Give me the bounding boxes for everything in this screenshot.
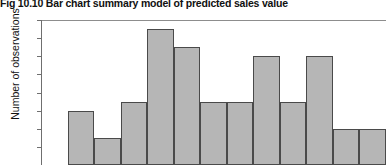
bar bbox=[94, 138, 121, 165]
chart-title: Fig 10.10 Bar chart summary model of pre… bbox=[0, 0, 386, 10]
bar bbox=[253, 56, 280, 165]
bar bbox=[200, 102, 227, 165]
bar bbox=[147, 29, 174, 165]
bar bbox=[174, 47, 201, 165]
bar bbox=[359, 129, 386, 165]
bar-series bbox=[41, 20, 386, 165]
bar bbox=[121, 102, 148, 165]
bar bbox=[280, 102, 307, 165]
figure-container: Fig 10.10 Bar chart summary model of pre… bbox=[0, 0, 386, 165]
bar bbox=[227, 102, 254, 165]
bar bbox=[68, 111, 95, 165]
bar bbox=[333, 129, 360, 165]
y-axis-title: Number of observations bbox=[7, 0, 23, 139]
plot-area bbox=[41, 20, 386, 165]
bar bbox=[306, 56, 333, 165]
